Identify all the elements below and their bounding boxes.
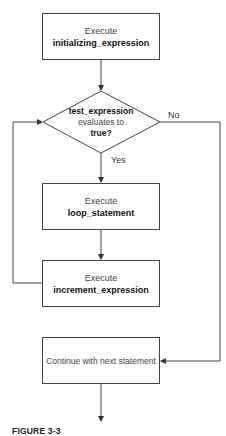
loop-line1: Execute	[85, 195, 118, 207]
init-line2: initializing_expression	[53, 37, 150, 49]
no-label: No	[168, 110, 180, 120]
loop-line2: loop_statement	[68, 207, 135, 219]
continue-line1: Continue with next statement	[46, 355, 156, 367]
init-line1: Execute	[85, 25, 118, 37]
decision-line1: test_expression	[51, 106, 151, 117]
yes-label: Yes	[111, 155, 126, 165]
decision-line2: evaluates to	[51, 117, 151, 128]
decision-line3: true?	[51, 128, 151, 139]
initialize-box: Execute initializing_expression	[42, 13, 160, 60]
continue-box: Continue with next statement	[42, 337, 160, 384]
figure-caption: FIGURE 3-3	[12, 426, 61, 436]
increment-box: Execute increment_expression	[42, 260, 160, 307]
increment-line1: Execute	[85, 272, 118, 284]
loop-statement-box: Execute loop_statement	[42, 183, 160, 230]
decision-text: test_expression evaluates to true?	[51, 106, 151, 139]
increment-line2: increment_expression	[53, 284, 149, 296]
